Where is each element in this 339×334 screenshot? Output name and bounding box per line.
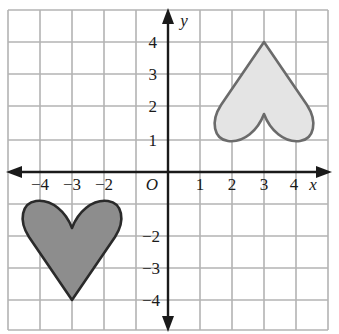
y-tick-label-neg-2: −2 bbox=[142, 227, 160, 246]
origin-label: O bbox=[146, 175, 158, 194]
x-tick-label-2: 2 bbox=[228, 175, 237, 194]
figure-background bbox=[0, 0, 339, 334]
x-tick-label-3: 3 bbox=[260, 175, 269, 194]
coordinate-plane-canvas: x y O −4 −3 −2 1 2 3 4 4 3 2 1 −2 −3 −4 bbox=[0, 0, 339, 334]
x-tick-label-neg-4: −4 bbox=[31, 175, 50, 194]
y-tick-label-3: 3 bbox=[149, 65, 158, 84]
y-tick-label-2: 2 bbox=[149, 97, 158, 116]
y-axis-label: y bbox=[178, 11, 188, 30]
y-tick-label-1: 1 bbox=[149, 131, 158, 150]
x-tick-label-neg-3: −3 bbox=[63, 175, 81, 194]
x-tick-label-4: 4 bbox=[290, 175, 299, 194]
x-tick-label-1: 1 bbox=[196, 175, 205, 194]
y-tick-label-neg-3: −3 bbox=[142, 259, 160, 278]
coordinate-plane-figure: x y O −4 −3 −2 1 2 3 4 4 3 2 1 −2 −3 −4 bbox=[0, 0, 339, 334]
x-axis-label: x bbox=[308, 175, 317, 194]
y-tick-label-4: 4 bbox=[149, 33, 158, 52]
x-tick-label-neg-2: −2 bbox=[95, 175, 113, 194]
y-tick-label-neg-4: −4 bbox=[142, 291, 161, 310]
